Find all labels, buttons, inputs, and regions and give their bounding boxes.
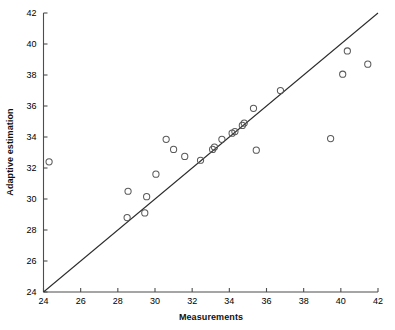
x-tick-label: 34 bbox=[224, 296, 234, 306]
y-tick-label: 40 bbox=[26, 39, 36, 49]
y-axis-label: Adaptive estimation bbox=[5, 108, 15, 195]
x-tick-label: 40 bbox=[336, 296, 346, 306]
y-tick-label: 32 bbox=[26, 163, 36, 173]
x-tick-label: 28 bbox=[113, 296, 123, 306]
figure-background bbox=[0, 0, 395, 330]
x-tick-label: 36 bbox=[261, 296, 271, 306]
x-tick-label: 30 bbox=[150, 296, 160, 306]
x-tick-label: 24 bbox=[38, 296, 48, 306]
x-tick-label: 26 bbox=[76, 296, 86, 306]
y-tick-label: 36 bbox=[26, 101, 36, 111]
y-tick-label: 38 bbox=[26, 70, 36, 80]
y-tick-label: 30 bbox=[26, 194, 36, 204]
y-tick-label: 24 bbox=[26, 287, 36, 297]
x-tick-label: 32 bbox=[187, 296, 197, 306]
x-axis-label: Measurements bbox=[179, 312, 243, 322]
y-tick-label: 26 bbox=[26, 256, 36, 266]
y-tick-label: 34 bbox=[26, 132, 36, 142]
x-tick-label: 42 bbox=[373, 296, 383, 306]
scatter-plot-figure: 24262830323436384042 2426283032343638404… bbox=[0, 0, 395, 330]
y-tick-label: 42 bbox=[26, 8, 36, 18]
y-tick-label: 28 bbox=[26, 225, 36, 235]
x-tick-label: 38 bbox=[299, 296, 309, 306]
